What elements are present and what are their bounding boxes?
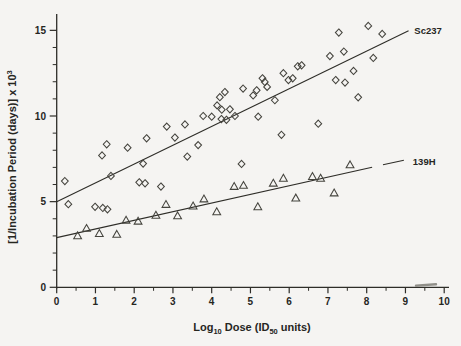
x-tick-label: 4 <box>209 296 215 307</box>
y-tick-label: 5 <box>40 196 46 207</box>
marker-diamond-sc237 <box>124 144 131 151</box>
marker-triangle-139h <box>240 181 248 188</box>
marker-diamond-sc237 <box>103 141 110 148</box>
x-tick-label: 3 <box>170 296 176 307</box>
marker-triangle-139h <box>292 194 300 201</box>
marker-triangle-139h <box>346 161 354 168</box>
scatter-plot-figure: 051015012345678910 [1/Incubation Period … <box>0 0 461 346</box>
marker-diamond-sc237 <box>240 85 247 92</box>
marker-diamond-sc237 <box>136 179 143 186</box>
marker-diamond-sc237 <box>278 131 285 138</box>
marker-diamond-sc237 <box>340 48 347 55</box>
marker-triangle-139h <box>269 179 277 186</box>
marker-triangle-139h <box>95 230 103 237</box>
marker-triangle-139h <box>113 230 121 237</box>
marker-diamond-sc237 <box>208 113 215 120</box>
marker-diamond-sc237 <box>227 106 234 113</box>
axes-group <box>56 14 449 289</box>
axis-smudge-artifact <box>416 284 436 285</box>
fit-line-sc237 <box>57 31 409 202</box>
marker-triangle-139h <box>279 174 287 181</box>
marker-diamond-sc237 <box>99 152 106 159</box>
marker-diamond-sc237 <box>195 142 202 149</box>
marker-diamond-sc237 <box>326 52 333 59</box>
y-tick-label: 10 <box>35 111 47 122</box>
x-tick-label: 6 <box>286 296 292 307</box>
marker-diamond-sc237 <box>163 123 170 130</box>
marker-triangle-139h <box>230 182 238 189</box>
marker-diamond-sc237 <box>158 183 165 190</box>
marker-diamond-sc237 <box>335 29 342 36</box>
fit-line-139h <box>57 167 372 237</box>
x-tick-label: 1 <box>93 296 99 307</box>
y-tick-label: 0 <box>40 282 46 293</box>
marker-diamond-sc237 <box>355 94 362 101</box>
marker-triangle-139h <box>330 189 338 196</box>
x-tick-label: 2 <box>131 296 137 307</box>
marker-diamond-sc237 <box>61 177 68 184</box>
marker-triangle-139h <box>162 200 170 207</box>
marker-diamond-sc237 <box>200 112 207 119</box>
fit-lines-group: Sc237139H <box>57 25 442 237</box>
marker-triangle-139h <box>254 203 262 210</box>
series-label-sc237: Sc237 <box>414 25 441 36</box>
x-tick-label: 8 <box>364 296 370 307</box>
axis-titles-group: [1/Incubation Period (days)] x 103Log10 … <box>5 70 312 336</box>
marker-diamond-sc237 <box>271 97 278 104</box>
marker-diamond-sc237 <box>184 153 191 160</box>
marker-triangle-139h <box>213 208 221 215</box>
marker-diamond-sc237 <box>171 134 178 141</box>
marker-diamond-sc237 <box>142 180 149 187</box>
marker-diamond-sc237 <box>182 121 189 128</box>
marker-diamond-sc237 <box>350 67 357 74</box>
marker-diamond-sc237 <box>255 113 262 120</box>
y-tick-label: 15 <box>35 25 47 36</box>
series-label-139h: 139H <box>413 156 436 167</box>
x-axis-title: Log10 Dose (ID50 units) <box>193 321 311 336</box>
marker-diamond-sc237 <box>332 76 339 83</box>
marker-diamond-sc237 <box>365 22 372 29</box>
x-tick-label: 10 <box>438 296 450 307</box>
marker-diamond-sc237 <box>280 70 287 77</box>
fit-line-139h <box>383 160 404 165</box>
marker-diamond-sc237 <box>379 30 386 37</box>
x-tick-label: 7 <box>325 296 331 307</box>
marker-triangle-139h <box>200 195 208 202</box>
scan-artifacts-group <box>416 284 436 285</box>
marker-diamond-sc237 <box>92 203 99 210</box>
x-tick-label: 0 <box>54 296 60 307</box>
marker-diamond-sc237 <box>65 201 72 208</box>
x-tick-label: 9 <box>403 296 409 307</box>
x-tick-label: 5 <box>248 296 254 307</box>
marker-diamond-sc237 <box>221 88 228 95</box>
marker-triangle-139h <box>309 173 317 180</box>
marker-diamond-sc237 <box>216 94 223 101</box>
marker-triangle-139h <box>174 212 182 219</box>
marker-diamond-sc237 <box>143 135 150 142</box>
marker-diamond-sc237 <box>238 160 245 167</box>
marker-diamond-sc237 <box>342 79 349 86</box>
marker-triangle-139h <box>83 224 91 231</box>
chart-svg: 051015012345678910 [1/Incubation Period … <box>0 0 461 346</box>
marker-diamond-sc237 <box>315 120 322 127</box>
marker-diamond-sc237 <box>370 54 377 61</box>
data-points-group <box>61 22 385 238</box>
marker-triangle-139h <box>134 217 142 224</box>
marker-triangle-139h <box>189 202 197 209</box>
y-axis-title: [1/Incubation Period (days)] x 103 <box>5 70 19 244</box>
marker-diamond-sc237 <box>264 83 271 90</box>
